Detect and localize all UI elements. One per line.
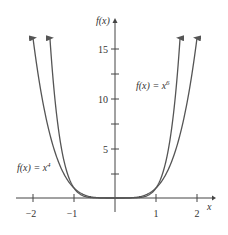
y-axis-label: f(x) — [96, 15, 111, 27]
y-tick-label: 5 — [103, 144, 108, 155]
y-axis-arrow-icon — [113, 18, 118, 23]
x-axis-arrow-icon — [212, 196, 216, 201]
x-tick-label: −2 — [26, 208, 37, 219]
x-tick-label: 2 — [195, 208, 200, 219]
x-tick-label: 1 — [154, 208, 159, 219]
label-x4: f(x) = x4 — [17, 161, 51, 174]
label-x6: f(x) = x6 — [136, 79, 170, 92]
y-tick-label: 15 — [98, 44, 108, 55]
x-axis-label: x — [206, 201, 212, 212]
x-tick-label: −1 — [67, 208, 78, 219]
chart: −2 −1 1 2 x 5 10 15 f(x) f(x) = x4 f(x) … — [0, 0, 228, 235]
y-tick-label: 10 — [98, 94, 108, 105]
